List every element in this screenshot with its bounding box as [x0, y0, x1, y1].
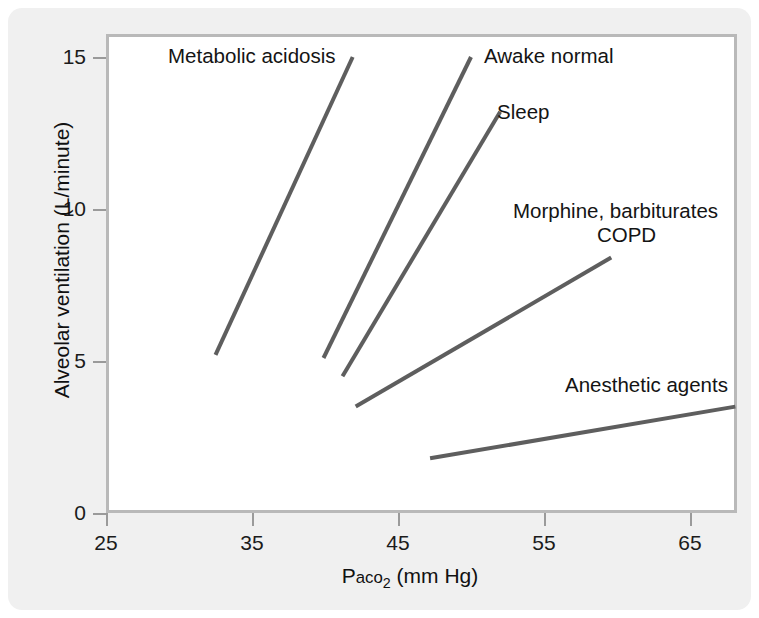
annotation-anesthetic-agents: Anesthetic agents — [565, 374, 728, 397]
series-line-metabolic-acidosis — [216, 57, 353, 355]
annotation-awake-normal: Awake normal — [484, 45, 614, 68]
annotation-metabolic-acidosis: Metabolic acidosis — [168, 45, 336, 68]
series-line-awake-normal — [324, 57, 472, 358]
ventilation-response-chart: 15 10 5 0 25 35 45 55 65 Alveolar ventil… — [0, 0, 759, 618]
annotation-morphine-barbiturates: Morphine, barbiturates — [513, 200, 718, 223]
annotation-sleep: Sleep — [497, 101, 549, 124]
annotation-copd: COPD — [513, 224, 740, 247]
series-line-anesthetic-agents — [430, 407, 735, 459]
series-lines-layer — [0, 0, 759, 618]
